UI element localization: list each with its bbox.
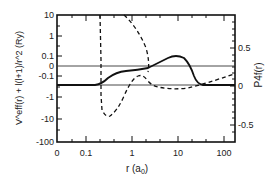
left-tick-labels: 10 1 0.1 0 -0.1 -1 -10 -100 <box>36 10 54 147</box>
svg-text:0.5: 0.5 <box>238 43 251 53</box>
svg-text:-10: -10 <box>41 114 54 124</box>
svg-text:100: 100 <box>216 148 231 158</box>
svg-text:-0.1: -0.1 <box>38 71 54 81</box>
svg-text:-100: -100 <box>36 137 54 147</box>
right-tick-labels: 0.5 0 -0.5 <box>238 43 254 130</box>
svg-text:1: 1 <box>129 148 134 158</box>
y-axis-label-left: V^eff(r) + l(l+1)/r^2 (Ry) <box>14 31 24 125</box>
svg-text:10: 10 <box>173 148 183 158</box>
svg-text:1: 1 <box>49 31 54 41</box>
svg-text:10: 10 <box>44 10 54 20</box>
y-axis-label-right: P4f(r) <box>253 63 264 88</box>
x-axis-label: r (a0) <box>126 163 148 175</box>
svg-text:0.1: 0.1 <box>80 148 93 158</box>
svg-text:-0.5: -0.5 <box>238 120 254 130</box>
svg-text:0: 0 <box>54 148 59 158</box>
x-axis-ticks <box>72 15 224 142</box>
svg-text:-1: -1 <box>46 92 54 102</box>
potential-curve-dashed-upper <box>124 15 149 72</box>
svg-text:0: 0 <box>238 81 243 91</box>
chart: 10 1 0.1 0 -0.1 -1 -10 -100 0.5 0 -0.5 0… <box>0 0 272 185</box>
svg-text:0.1: 0.1 <box>41 51 54 61</box>
p4f-curve-solid <box>57 56 235 85</box>
svg-text:0: 0 <box>49 61 54 71</box>
x-tick-labels: 0 0.1 1 10 100 <box>54 148 231 158</box>
